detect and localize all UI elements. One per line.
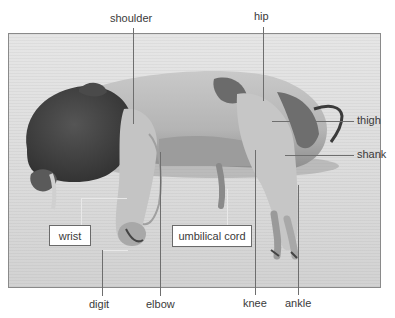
digit-leader-line [102,250,103,296]
fetal-pig-illustration [9,34,381,288]
hip-leader-line [263,27,264,101]
thigh-leader-line [272,121,354,122]
label-digit: digit [89,298,109,310]
wrist-leader-line-vertical [81,198,82,226]
label-shoulder: shoulder [110,12,152,24]
label-ankle: ankle [285,297,311,309]
label-shank: shank [357,148,386,160]
label-umbilical-cord: umbilical cord [172,225,252,247]
fetal-pig-photo [8,33,381,288]
label-thigh: thigh [357,114,381,126]
ankle-leader-line [298,185,299,295]
digit-leader-line-horizontal [102,250,128,251]
label-hip: hip [254,10,269,22]
label-wrist: wrist [49,225,91,246]
knee-leader-line [255,150,256,295]
elbow-leader-line [160,152,161,296]
label-knee: knee [243,297,267,309]
shank-leader-line [285,155,354,156]
umbilical-cord-leader-line [227,189,228,226]
shoulder-leader-line [133,28,134,124]
wrist-leader-line-horizontal [81,198,127,199]
label-elbow: elbow [146,298,175,310]
